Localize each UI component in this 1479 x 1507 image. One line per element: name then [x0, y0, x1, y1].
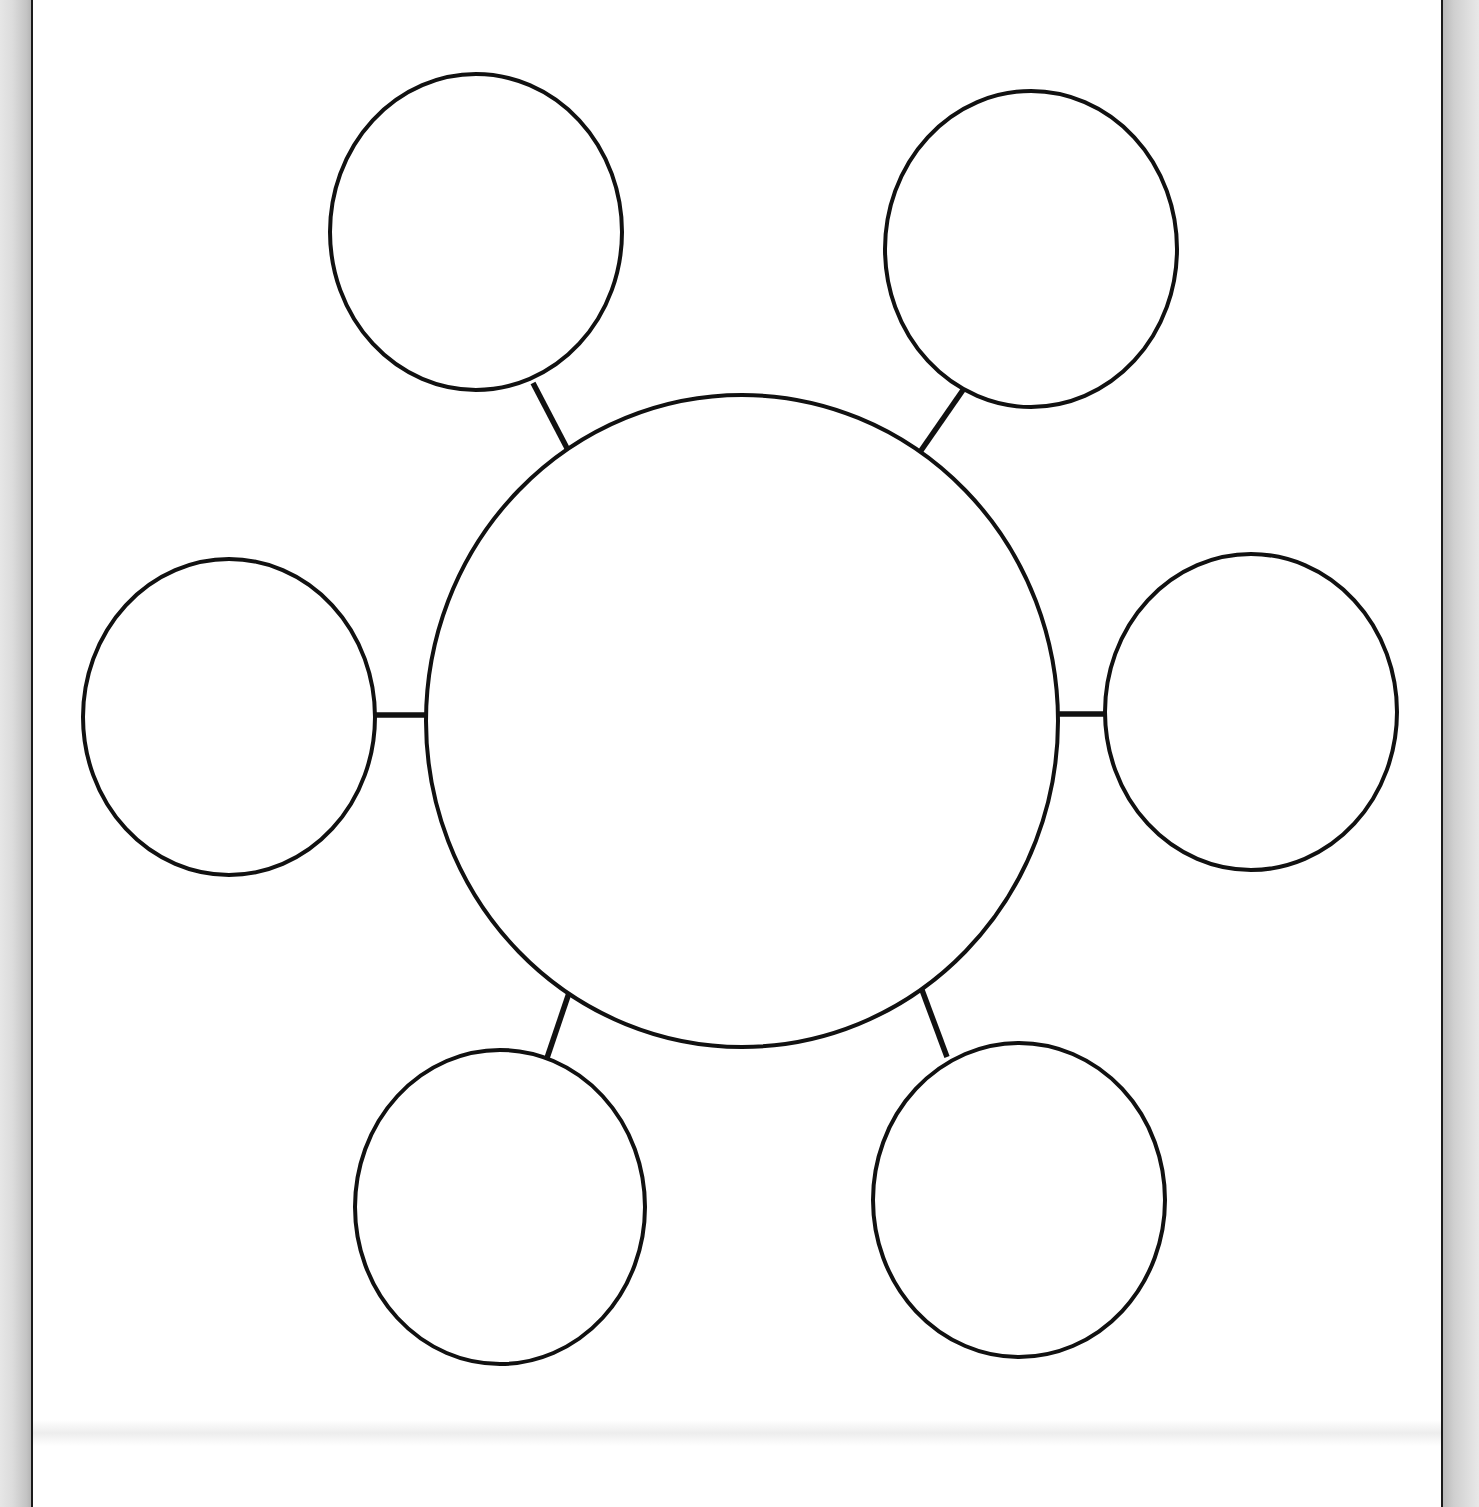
satellite-circle-bottom-left: [355, 1050, 645, 1364]
connector-line-bottom-left: [547, 990, 570, 1058]
connector-line-bottom-right: [922, 990, 947, 1057]
central-circle-group: [426, 395, 1058, 1047]
connector-line-top-right: [920, 390, 963, 452]
connector-line-top-left: [533, 383, 569, 452]
satellite-circle-top-right: [885, 91, 1177, 407]
central-circle: [426, 395, 1058, 1047]
satellite-circle-top-left: [330, 74, 622, 390]
satellite-circle-right: [1105, 554, 1397, 870]
bubble-map-diagram: [0, 0, 1479, 1507]
scanned-worksheet: [0, 0, 1479, 1507]
satellite-circle-left: [83, 559, 375, 875]
satellite-circle-bottom-right: [873, 1043, 1165, 1357]
